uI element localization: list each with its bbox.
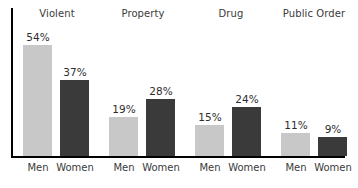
bar-violent-men[interactable] xyxy=(23,45,52,156)
bar-property-men[interactable] xyxy=(109,117,138,156)
tick-label-violent-women: Women xyxy=(53,162,97,173)
bar-public-order-men[interactable] xyxy=(281,133,310,156)
value-label-drug-women: 24% xyxy=(228,93,266,105)
value-label-violent-men: 54% xyxy=(19,31,57,43)
tick-label-property-women: Women xyxy=(139,162,183,173)
tick-label-drug-women: Women xyxy=(225,162,269,173)
tick-label-property-men: Men xyxy=(105,162,143,173)
bar-property-women[interactable] xyxy=(146,99,175,156)
value-label-drug-men: 15% xyxy=(191,111,229,123)
bars-layer: 54% 37% 19% 28% 15% 24% 11% 9% xyxy=(0,0,358,188)
bar-public-order-women[interactable] xyxy=(318,137,347,156)
bar-drug-men[interactable] xyxy=(195,125,224,156)
tick-label-public-order-men: Men xyxy=(277,162,315,173)
tick-label-drug-men: Men xyxy=(191,162,229,173)
tick-label-public-order-women: Women xyxy=(311,162,355,173)
value-label-public-order-men: 11% xyxy=(277,119,315,131)
value-label-public-order-women: 9% xyxy=(314,123,352,135)
value-label-violent-women: 37% xyxy=(56,66,94,78)
bar-drug-women[interactable] xyxy=(232,107,261,156)
tick-label-violent-men: Men xyxy=(19,162,57,173)
bar-violent-women[interactable] xyxy=(60,80,89,156)
bar-chart: Violent Property Drug Public Order 54% 3… xyxy=(0,0,358,188)
value-label-property-women: 28% xyxy=(142,85,180,97)
value-label-property-men: 19% xyxy=(105,103,143,115)
